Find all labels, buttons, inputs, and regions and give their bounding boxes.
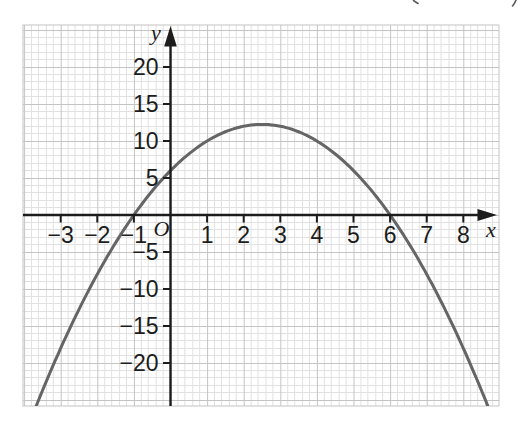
cropped-mark (414, 1, 419, 4)
y-tick-label: 20 (133, 54, 159, 80)
x-tick-label: 3 (274, 222, 287, 248)
origin-label: O (154, 216, 170, 241)
y-tick-label: 5 (146, 165, 159, 191)
y-tick-label: −10 (119, 276, 158, 302)
y-tick-label: −5 (132, 239, 158, 265)
cropped-mark (513, 0, 517, 6)
graph-canvas: −3 −2 −1 1 2 3 4 5 6 7 8 20 15 10 5 −5 −… (0, 0, 521, 439)
x-tick-label: 7 (420, 222, 433, 248)
x-tick-label: −3 (48, 222, 74, 248)
x-axis-label: x (485, 217, 496, 242)
y-tick-label: 10 (133, 128, 159, 154)
x-tick-label: −2 (84, 222, 110, 248)
graph-figure: −3 −2 −1 1 2 3 4 5 6 7 8 20 15 10 5 −5 −… (0, 0, 521, 439)
x-tick-label: 6 (384, 222, 397, 248)
x-tick-label: 4 (311, 222, 324, 248)
x-tick-label: 1 (201, 222, 214, 248)
y-tick-label: 15 (133, 91, 159, 117)
x-tick-label: 2 (237, 222, 250, 248)
x-tick-label: 5 (347, 222, 360, 248)
x-tick-label: 8 (457, 222, 470, 248)
y-tick-label: −15 (119, 313, 158, 339)
y-tick-label: −20 (119, 350, 158, 376)
y-axis-label: y (149, 20, 161, 45)
